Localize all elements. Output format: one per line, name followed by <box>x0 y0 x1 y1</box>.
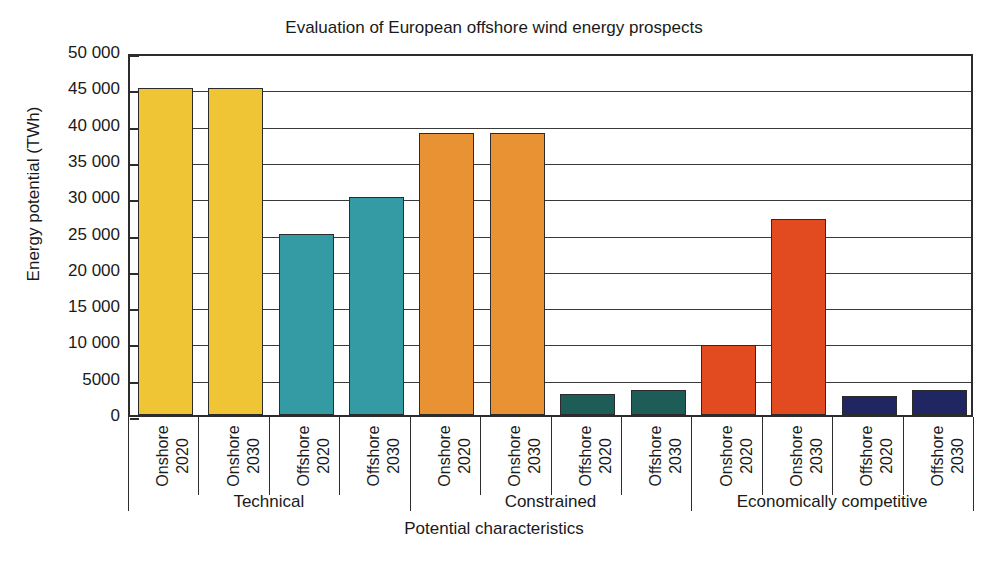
group-label: Economically competitive <box>691 492 973 512</box>
bar[interactable] <box>419 133 474 415</box>
category-label-year: 2020 <box>738 416 756 496</box>
category-label-site: Offshore <box>295 416 313 496</box>
category-label-year: 2030 <box>245 416 263 496</box>
y-tick-label: 35 000 <box>12 152 120 172</box>
bar[interactable] <box>208 88 263 415</box>
category-label-year: 2030 <box>385 416 403 496</box>
category-label: Onshore2020 <box>128 417 198 495</box>
category-label-site: Onshore <box>718 416 736 496</box>
y-tick-label: 20 000 <box>12 261 120 281</box>
bar[interactable] <box>771 219 826 415</box>
category-label-year: 2020 <box>456 416 474 496</box>
category-label-site: Offshore <box>577 416 595 496</box>
category-label-site: Onshore <box>154 416 172 496</box>
category-label: Onshore2020 <box>691 417 761 495</box>
bar[interactable] <box>842 396 897 415</box>
y-tick-label: 0 <box>12 406 120 426</box>
bar-series <box>130 56 971 415</box>
figure-container: Evaluation of European offshore wind ene… <box>0 0 988 576</box>
bar[interactable] <box>701 345 756 415</box>
category-label-year: 2020 <box>315 416 333 496</box>
category-label: Offshore2030 <box>903 417 973 495</box>
y-tick-label: 5000 <box>12 370 120 390</box>
category-label-year: 2020 <box>597 416 615 496</box>
y-tick-label: 30 000 <box>12 188 120 208</box>
category-separator <box>198 417 199 495</box>
category-label-year: 2020 <box>174 416 192 496</box>
category-label-year: 2030 <box>808 416 826 496</box>
category-label: Onshore2030 <box>198 417 268 495</box>
category-separator <box>480 417 481 495</box>
y-tick-label: 15 000 <box>12 297 120 317</box>
category-label-site: Offshore <box>365 416 383 496</box>
category-label: Onshore2030 <box>762 417 832 495</box>
category-label: Offshore2030 <box>621 417 691 495</box>
category-label-site: Offshore <box>647 416 665 496</box>
category-separator <box>832 417 833 495</box>
bar[interactable] <box>349 197 404 415</box>
figure-caption <box>4 560 704 576</box>
chart-title: Evaluation of European offshore wind ene… <box>0 18 988 38</box>
category-label-year: 2030 <box>949 416 967 496</box>
y-tick-label: 45 000 <box>12 79 120 99</box>
bar[interactable] <box>490 133 545 415</box>
category-separator <box>551 417 552 495</box>
category-separator <box>903 417 904 495</box>
group-separator <box>410 417 411 511</box>
category-label-site: Offshore <box>929 416 947 496</box>
category-label-site: Onshore <box>436 416 454 496</box>
category-label-site: Onshore <box>506 416 524 496</box>
bar[interactable] <box>138 88 193 415</box>
category-separator <box>269 417 270 495</box>
category-label: Onshore2020 <box>410 417 480 495</box>
category-label-year: 2020 <box>878 416 896 496</box>
category-label-site: Onshore <box>788 416 806 496</box>
group-separator <box>973 417 974 511</box>
category-label: Onshore2030 <box>480 417 550 495</box>
y-tick-label: 40 000 <box>12 116 120 136</box>
category-label: Offshore2020 <box>551 417 621 495</box>
category-label: Offshore2030 <box>339 417 409 495</box>
y-tick-label: 50 000 <box>12 43 120 63</box>
group-separator <box>128 417 129 511</box>
category-label: Offshore2020 <box>832 417 902 495</box>
category-label-year: 2030 <box>667 416 685 496</box>
category-label: Offshore2020 <box>269 417 339 495</box>
category-label-year: 2030 <box>526 416 544 496</box>
group-label: Constrained <box>410 492 692 512</box>
group-label: Technical <box>128 492 410 512</box>
bar[interactable] <box>912 390 967 415</box>
y-tick-label: 10 000 <box>12 333 120 353</box>
bar[interactable] <box>279 234 334 416</box>
category-separator <box>339 417 340 495</box>
category-label-site: Offshore <box>858 416 876 496</box>
group-separator <box>691 417 692 511</box>
bar[interactable] <box>560 394 615 415</box>
category-label-site: Onshore <box>225 416 243 496</box>
x-axis-label: Potential characteristics <box>0 519 988 539</box>
category-separator <box>621 417 622 495</box>
y-tick-label: 25 000 <box>12 225 120 245</box>
plot-area <box>128 54 973 417</box>
category-separator <box>762 417 763 495</box>
bar[interactable] <box>631 390 686 415</box>
